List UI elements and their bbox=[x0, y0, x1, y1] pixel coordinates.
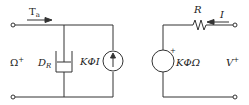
left-bottom-terminal bbox=[11, 95, 15, 99]
voltage-source-polarity: + bbox=[170, 47, 176, 55]
damper-icon bbox=[56, 25, 72, 97]
current-label: I bbox=[219, 9, 225, 20]
current-arrow-icon bbox=[207, 20, 229, 25]
torque-label: Ta bbox=[29, 6, 40, 19]
right-bottom-terminal bbox=[233, 95, 237, 99]
damper-label: DR bbox=[37, 57, 52, 70]
current-source-icon bbox=[103, 25, 123, 97]
left-top-terminal bbox=[11, 23, 15, 27]
left-port-label: Ω+ bbox=[10, 56, 24, 68]
current-source-label: KΦI bbox=[79, 56, 101, 67]
resistor-icon bbox=[163, 20, 233, 50]
left-circuit bbox=[11, 18, 123, 100]
circuit-diagram: Ta Ω+ DR KΦI R I + KΦΩ V+ bbox=[0, 0, 249, 105]
voltage-source-label: KΦΩ bbox=[175, 57, 200, 68]
right-port-label: V+ bbox=[226, 56, 239, 68]
resistor-label: R bbox=[193, 4, 202, 15]
right-top-terminal bbox=[233, 23, 237, 27]
